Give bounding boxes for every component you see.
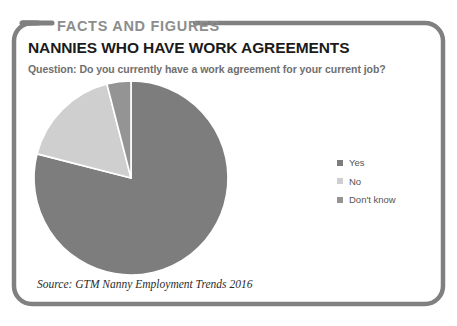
pie-chart [30,80,235,280]
chart-legend: Yes No Don't know [337,158,396,205]
legend-swatch-dont-know [337,197,343,203]
legend-label-dont-know: Don't know [349,195,396,205]
pie-slices [34,81,228,275]
legend-swatch-no [337,178,343,184]
legend-item-no[interactable]: No [337,177,396,187]
legend-swatch-yes [337,160,343,166]
banner-label: FACTS AND FIGURES [57,18,220,34]
source-note: Source: GTM Nanny Employment Trends 2016 [37,278,252,290]
legend-label-no: No [349,177,361,187]
legend-label-yes: Yes [349,158,365,168]
chart-question: Question: Do you currently have a work a… [28,63,386,75]
legend-item-yes[interactable]: Yes [337,158,396,168]
page-title: NANNIES WHO HAVE WORK AGREEMENTS [28,39,349,57]
legend-item-dont-know[interactable]: Don't know [337,195,396,205]
